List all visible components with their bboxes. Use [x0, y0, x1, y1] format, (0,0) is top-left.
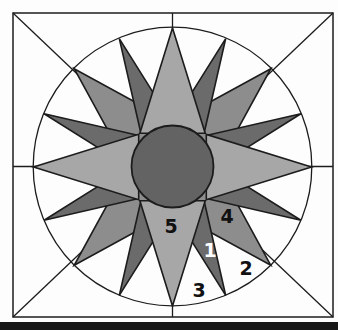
- diagram-canvas: 5 4 1 2 3: [0, 0, 338, 330]
- piece-label-1: 1: [203, 239, 216, 261]
- compass-point-west: [34, 134, 139, 199]
- piece-label-4: 4: [220, 205, 233, 227]
- compass-quilt-diagram: 5 4 1 2 3: [0, 0, 338, 330]
- compass-point-north: [140, 28, 205, 133]
- piece-label-2: 2: [239, 257, 252, 279]
- scan-edge-bar: [0, 322, 338, 330]
- piece-label-3: 3: [192, 279, 205, 301]
- compass-point-east: [206, 134, 311, 199]
- piece-label-5: 5: [164, 215, 177, 237]
- center-circle: [132, 126, 214, 208]
